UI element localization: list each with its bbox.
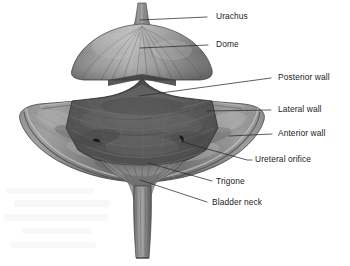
label-anterior-wall: Anterior wall xyxy=(278,128,325,138)
label-ureteral-orifice: Ureteral orifice xyxy=(255,154,311,164)
label-trigone: Trigone xyxy=(216,176,245,186)
label-urachus: Urachus xyxy=(216,11,248,21)
label-posterior-wall: Posterior wall xyxy=(278,72,330,82)
bladder-illustration: Urachus Dome Posterior wall Lateral wall… xyxy=(0,0,350,266)
dome-body xyxy=(60,22,220,86)
label-bladder-neck: Bladder neck xyxy=(212,197,263,207)
scan-bleedthrough-artifact xyxy=(4,188,110,248)
urethra-stem xyxy=(134,186,152,258)
label-lateral-wall: Lateral wall xyxy=(278,104,322,114)
label-dome: Dome xyxy=(216,39,239,49)
leader-urachus xyxy=(140,17,207,20)
bladder-anatomy-figure: Urachus Dome Posterior wall Lateral wall… xyxy=(0,0,350,266)
bladder-cavity xyxy=(60,78,224,168)
